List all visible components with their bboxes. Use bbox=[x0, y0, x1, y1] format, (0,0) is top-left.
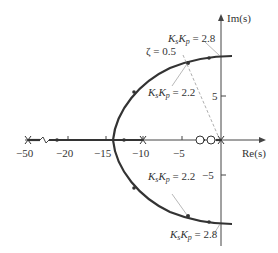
x-tick-minus15: −15 bbox=[94, 147, 112, 159]
x-axis-label: Re(s) bbox=[242, 147, 266, 160]
y-tick-minus5: −5 bbox=[202, 169, 214, 181]
y-axis-label: Im(s) bbox=[227, 12, 251, 25]
imaginary-axis bbox=[218, 14, 226, 246]
x-tick-minus20: −20 bbox=[56, 147, 74, 159]
arrow-up-icon bbox=[218, 14, 224, 21]
x-tick-minus10: −10 bbox=[132, 147, 150, 159]
y-tick-5: 5 bbox=[212, 90, 218, 102]
gain-label-lower-2-2: KsKp = 2.2 bbox=[147, 170, 195, 184]
gain-label-lower-2-8: KsKp = 2.8 bbox=[169, 228, 218, 242]
arrow-right-icon bbox=[259, 137, 266, 143]
x-tick-minus50: −50 bbox=[16, 147, 34, 159]
zero-icon bbox=[196, 136, 204, 144]
x-tick-minus5: −5 bbox=[173, 147, 185, 159]
zeta-label: ζ = 0.5 bbox=[146, 45, 177, 58]
axis-break-icon bbox=[40, 137, 49, 143]
gain-label-upper-2-2: KsKp = 2.2 bbox=[147, 86, 195, 100]
gain-label-upper-2-8: KsKp = 2.8 bbox=[167, 32, 216, 46]
root-locus-plot: −50 −20 −15 −10 −5 5 −5 Re(s) Im(s) ζ = … bbox=[0, 0, 278, 253]
zero-icon bbox=[207, 136, 215, 144]
